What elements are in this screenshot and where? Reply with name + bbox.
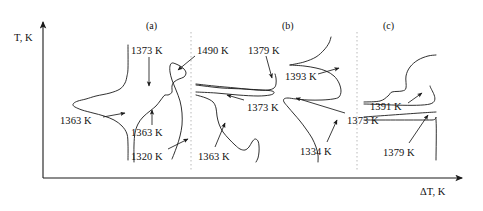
arrow-a-1490	[178, 56, 195, 70]
dta-figure: 1373 K1363 K1363 K1320 K1490 K1379 K1373…	[0, 0, 483, 211]
temperature-label-a-1363-left: 1363 K	[60, 116, 92, 127]
arrow-b-1379	[266, 56, 272, 78]
temperature-label-c-1379: 1379 K	[383, 148, 415, 159]
temperature-label-b-1334: 1334 K	[300, 147, 332, 158]
temperature-label-b-1393: 1393 K	[285, 72, 317, 83]
curve-b-curve-left-upper	[196, 74, 276, 90]
arrow-b-1334	[327, 120, 337, 142]
arrow-c-1391	[408, 93, 422, 103]
curve-b-curve-right-top	[290, 37, 331, 65]
temperature-label-a-1490: 1490 K	[197, 46, 229, 57]
temperature-label-b-1373: 1373 K	[247, 103, 279, 114]
temperature-label-a-1320: 1320 K	[131, 152, 163, 163]
arrow-c-1379	[409, 115, 428, 143]
temperature-label-b-1379: 1379 K	[248, 46, 280, 57]
arrow-a-1363-left	[103, 113, 125, 117]
panel-label-a: (a)	[146, 20, 157, 31]
x-axis-label: ΔT, K	[420, 186, 445, 197]
arrow-b-1373	[227, 95, 244, 100]
temperature-label-b-1373-right: 1373 K	[347, 116, 379, 127]
panel-label-c: (c)	[383, 20, 394, 31]
temperature-label-b-1363: 1363 K	[198, 152, 230, 163]
panel-label-b: (b)	[282, 20, 294, 31]
temperature-label-a-1373: 1373 K	[131, 46, 163, 57]
y-axis-label: T, K	[14, 32, 32, 43]
curve-a-curve-right	[134, 63, 186, 162]
arrow-a-1320	[168, 139, 188, 149]
plot-canvas	[0, 0, 483, 211]
temperature-label-c-1391: 1391 K	[370, 102, 402, 113]
curve-a-curve-left	[73, 45, 128, 160]
curve-c-curve-upper	[364, 55, 436, 102]
temperature-label-a-1363-mid: 1363 K	[131, 128, 163, 139]
